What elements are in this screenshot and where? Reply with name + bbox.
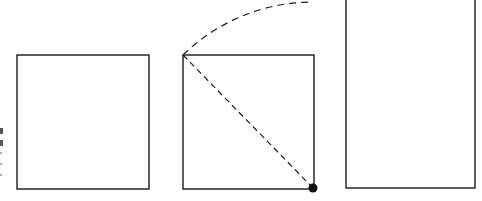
right-rectangle bbox=[346, 0, 475, 188]
rotation-arc bbox=[183, 2, 313, 55]
diagonal-dashed-line bbox=[183, 55, 313, 188]
edge-mark bbox=[0, 152, 2, 154]
edge-mark bbox=[0, 163, 2, 165]
edge-mark bbox=[0, 128, 3, 134]
construction-diagram bbox=[0, 0, 482, 201]
edge-mark bbox=[0, 174, 2, 176]
left-square bbox=[17, 55, 149, 189]
edge-marks bbox=[0, 128, 3, 176]
edge-mark bbox=[0, 140, 3, 146]
pivot-dot bbox=[309, 184, 318, 193]
